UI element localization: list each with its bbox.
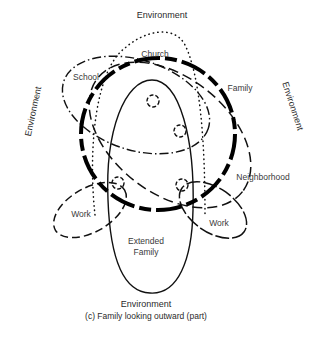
neighborhood-label: Neighborhood (236, 172, 290, 182)
environment-label-left: Environment (23, 85, 43, 137)
family-member-markers (112, 95, 188, 191)
work-right-label: Work (209, 218, 229, 228)
ecomap-diagram: Environment Environment Environment Chur… (0, 0, 323, 339)
figure-caption: (c) Family looking outward (part) (85, 311, 207, 321)
environment-label-top: Environment (137, 10, 188, 20)
environment-label-right: Environment (280, 80, 305, 132)
member-circle-1 (147, 95, 159, 107)
work-left-label: Work (71, 209, 91, 219)
school-label: School (73, 72, 99, 82)
school-boundary (50, 39, 222, 172)
church-label: Church (141, 49, 169, 59)
environment-label-bottom: Environment (121, 299, 172, 309)
member-circle-2 (174, 125, 186, 137)
extended-family-label-line2: Family (133, 247, 159, 257)
work-right-boundary (169, 170, 256, 250)
extended-family-label-line1: Extended (128, 236, 164, 246)
diagram-canvas: Environment Environment Environment Chur… (0, 0, 323, 339)
family-label: Family (227, 83, 253, 93)
